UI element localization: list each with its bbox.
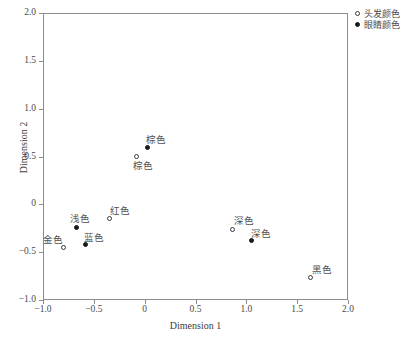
legend-item: 眼睛颜色 (355, 19, 400, 30)
scatter-plot-figure: −1.0−0.500.51.01.52.0 −1.0−0.500.51.01.5… (0, 0, 406, 346)
y-tick-label: 1.5 (0, 55, 36, 65)
x-tick-label: 1.0 (226, 304, 266, 314)
y-tick-mark (39, 61, 43, 62)
x-tick-label: −1.0 (23, 304, 63, 314)
y-axis-label: Dimension 2 (18, 78, 29, 218)
open-circle-icon (355, 11, 360, 16)
y-tick-mark (39, 157, 43, 158)
data-point-label: 红色 (110, 207, 130, 217)
data-point (134, 154, 139, 159)
data-point-label: 棕色 (146, 136, 166, 146)
data-point (74, 225, 79, 230)
y-tick-label: 2.0 (0, 7, 36, 17)
y-tick-mark (39, 300, 43, 301)
y-tick-mark (39, 109, 43, 110)
y-tick-label: −0.5 (0, 246, 36, 256)
x-tick-label: 0 (125, 304, 165, 314)
data-point-label: 棕色 (133, 162, 153, 172)
x-tick-label: 0.5 (176, 304, 216, 314)
y-tick-mark (39, 204, 43, 205)
filled-circle-icon (355, 22, 360, 27)
data-point-label: 深色 (234, 217, 254, 227)
data-point-label: 金色 (43, 236, 63, 246)
legend: 头发颜色眼睛颜色 (355, 8, 400, 30)
y-tick-label: −1.0 (0, 294, 36, 304)
data-point-label: 黑色 (312, 266, 332, 276)
plot-area (43, 13, 348, 300)
data-point-label: 深色 (251, 230, 271, 240)
data-point-label: 蓝色 (84, 234, 104, 244)
x-tick-label: −0.5 (74, 304, 114, 314)
y-tick-mark (39, 252, 43, 253)
x-tick-label: 2.0 (328, 304, 368, 314)
legend-label: 眼睛颜色 (364, 18, 400, 31)
data-point-label: 浅色 (70, 215, 90, 225)
data-point (107, 216, 112, 221)
data-point (230, 227, 235, 232)
x-tick-label: 1.5 (277, 304, 317, 314)
x-axis-label: Dimension 1 (43, 320, 348, 331)
y-tick-mark (39, 13, 43, 14)
